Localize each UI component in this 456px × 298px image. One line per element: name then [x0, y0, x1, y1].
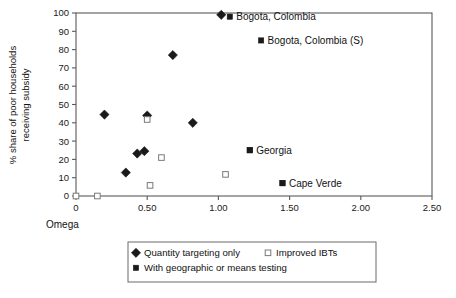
- x-tick-label: 2.50: [423, 202, 442, 213]
- annotation-marker: [247, 148, 252, 153]
- y-axis-ticks: [72, 13, 76, 196]
- y-tick-label: 70: [58, 62, 69, 73]
- legend-item[interactable]: With geographic or means testing: [133, 262, 287, 273]
- legend-label: With geographic or means testing: [144, 262, 287, 273]
- series-0: [100, 10, 226, 177]
- annotation-marker: [280, 181, 285, 186]
- data-point: [168, 50, 177, 59]
- x-tick-label: 2.00: [352, 202, 371, 213]
- plot-frame: [76, 13, 432, 196]
- y-tick-label: 40: [58, 117, 69, 128]
- legend-item[interactable]: Quantity targeting only: [131, 247, 240, 258]
- legend-marker: [265, 250, 271, 256]
- y-tick-label: 90: [58, 26, 69, 37]
- annotation-marker: [227, 14, 232, 19]
- y-tick-label: 80: [58, 44, 69, 55]
- x-axis-tick-labels: 00.501.001.502.002.50: [73, 202, 441, 213]
- y-tick-label: 0: [64, 190, 69, 201]
- annotation-label: Bogota, Colombia (S): [268, 35, 364, 46]
- data-point: [73, 193, 79, 199]
- annotation-0: Bogota, Colombia: [227, 11, 316, 22]
- y-axis-title-line2: receiving subsidy: [20, 68, 31, 141]
- legend-marker: [133, 265, 138, 270]
- y-tick-label: 30: [58, 136, 69, 147]
- x-axis-title: Omega: [46, 219, 79, 230]
- annotation-marker: [259, 38, 264, 43]
- data-point: [144, 117, 150, 123]
- series-1: [73, 117, 228, 199]
- annotation-label: Cape Verde: [289, 178, 342, 189]
- x-tick-label: 1.50: [280, 202, 299, 213]
- data-point: [100, 110, 109, 119]
- data-point: [95, 193, 101, 199]
- x-tick-label: 0: [73, 202, 78, 213]
- annotation-group: Bogota, ColombiaBogota, Colombia (S)Geor…: [227, 11, 363, 189]
- y-tick-label: 100: [53, 7, 69, 18]
- data-point: [121, 168, 130, 177]
- x-axis-ticks: [76, 196, 432, 200]
- annotation-label: Georgia: [256, 145, 292, 156]
- y-tick-label: 50: [58, 99, 69, 110]
- legend-item[interactable]: Improved IBTs: [265, 247, 337, 258]
- data-point: [223, 172, 229, 178]
- y-tick-label: 20: [58, 154, 69, 165]
- y-axis-tick-labels: 0102030405060708090100: [53, 7, 69, 201]
- data-point: [159, 155, 165, 161]
- scatter-chart-figure: 0102030405060708090100 00.501.001.502.00…: [0, 0, 456, 298]
- y-tick-label: 60: [58, 81, 69, 92]
- data-point: [217, 10, 226, 19]
- y-axis-title: % share of poor households receiving sub…: [7, 46, 31, 165]
- chart-canvas: 0102030405060708090100 00.501.001.502.00…: [0, 0, 456, 298]
- annotation-3: Cape Verde: [280, 178, 342, 189]
- x-tick-label: 1.00: [209, 202, 228, 213]
- y-axis-title-line1: % share of poor households: [7, 46, 18, 165]
- annotation-1: Bogota, Colombia (S): [259, 35, 364, 46]
- legend-label: Quantity targeting only: [144, 247, 240, 258]
- annotation-2: Georgia: [247, 145, 292, 156]
- data-point-group: [73, 10, 285, 199]
- x-tick-label: 0.50: [138, 202, 157, 213]
- data-point: [188, 118, 197, 127]
- legend-label: Improved IBTs: [276, 247, 338, 258]
- data-point: [147, 183, 153, 189]
- y-tick-label: 10: [58, 172, 69, 183]
- annotation-label: Bogota, Colombia: [236, 11, 316, 22]
